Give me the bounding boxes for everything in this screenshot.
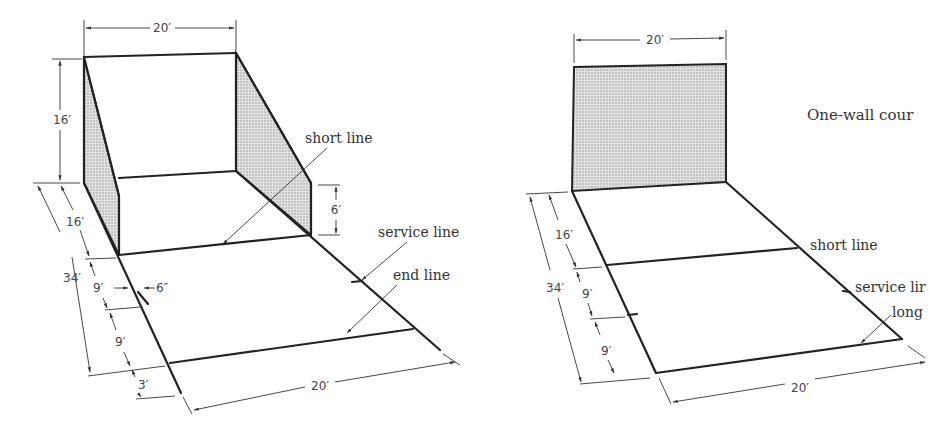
label-one-long-line: long bbox=[892, 304, 923, 320]
dim-total-length: 34′ bbox=[63, 271, 81, 285]
dim-short-to-service: 9′ bbox=[93, 281, 104, 295]
one-wall-court: 20′ 34′ 16′ 9′ 9′ 20′ One-wall cour shor… bbox=[526, 30, 926, 404]
dim-front-wall-height: 16′ bbox=[53, 113, 71, 127]
long-line bbox=[656, 339, 902, 373]
dim-wall-width: 20′ bbox=[646, 33, 664, 47]
right-side-wall bbox=[236, 53, 311, 235]
one-wall-caption: One-wall cour bbox=[807, 106, 914, 124]
one-wall bbox=[572, 64, 726, 191]
label-short-line: short line bbox=[305, 130, 373, 146]
dim-one-front-to-short: 16′ bbox=[555, 228, 573, 242]
dim-service-to-end: 9′ bbox=[115, 335, 126, 349]
dim-floor-width: 20′ bbox=[311, 379, 329, 393]
label-end-line: end line bbox=[393, 267, 450, 283]
dim-front-wall-width: 20′ bbox=[153, 21, 171, 35]
one-wall-short-line bbox=[607, 248, 797, 265]
court-diagrams: 20′ 16′ 6′ 34′ 16′ 9′ 6″ 9′ 3′ bbox=[0, 0, 930, 443]
label-service-line: service line bbox=[378, 224, 459, 240]
label-one-service-line: service lir bbox=[855, 279, 926, 295]
dim-one-floor-width: 20′ bbox=[791, 381, 809, 395]
dim-service-box: 6″ bbox=[156, 281, 169, 295]
short-line bbox=[119, 235, 311, 255]
dim-beyond-end: 3′ bbox=[138, 378, 149, 392]
end-line bbox=[170, 329, 413, 363]
label-one-short-line: short line bbox=[810, 237, 878, 253]
dim-one-short-to-service: 9′ bbox=[582, 287, 593, 301]
dim-front-to-short: 16′ bbox=[66, 215, 84, 229]
four-wall-court: 20′ 16′ 6′ 34′ 16′ 9′ 6″ 9′ 3′ bbox=[33, 20, 460, 414]
dim-one-service-to-long: 9′ bbox=[601, 344, 612, 358]
dim-one-total-length: 34′ bbox=[546, 281, 564, 295]
dim-side-wall-back: 6′ bbox=[331, 203, 342, 217]
